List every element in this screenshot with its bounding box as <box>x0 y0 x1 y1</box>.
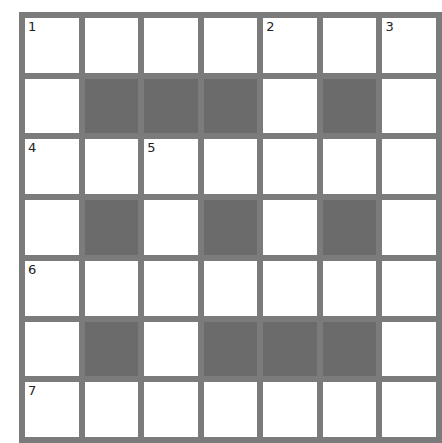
crossword-cell[interactable]: 3 <box>382 18 436 73</box>
black-cell <box>204 79 258 134</box>
crossword-cell[interactable] <box>85 261 139 316</box>
clue-number: 3 <box>385 20 393 33</box>
crossword-cell[interactable] <box>323 382 377 437</box>
crossword-cell[interactable]: 4 <box>25 139 79 194</box>
crossword-cell[interactable] <box>382 322 436 377</box>
crossword-cell[interactable] <box>85 382 139 437</box>
crossword-cell[interactable] <box>144 261 198 316</box>
crossword-cell[interactable] <box>144 18 198 73</box>
black-cell <box>204 200 258 255</box>
crossword-cell[interactable] <box>323 139 377 194</box>
black-cell <box>263 322 317 377</box>
black-cell <box>323 79 377 134</box>
black-cell <box>85 79 139 134</box>
crossword-cell[interactable] <box>144 382 198 437</box>
crossword-cell[interactable] <box>263 261 317 316</box>
crossword-cell[interactable] <box>144 322 198 377</box>
crossword-cell[interactable] <box>323 261 377 316</box>
crossword-cell[interactable] <box>85 18 139 73</box>
crossword-cell[interactable] <box>25 322 79 377</box>
clue-number: 6 <box>28 263 36 276</box>
black-cell <box>144 79 198 134</box>
clue-number: 1 <box>28 20 36 33</box>
crossword-cell[interactable] <box>263 139 317 194</box>
crossword-cell[interactable] <box>25 200 79 255</box>
crossword-cell[interactable] <box>382 200 436 255</box>
crossword-cell[interactable] <box>263 200 317 255</box>
crossword-cell[interactable] <box>263 382 317 437</box>
clue-number: 4 <box>28 141 36 154</box>
black-cell <box>85 200 139 255</box>
crossword-cell[interactable]: 5 <box>144 139 198 194</box>
crossword-cell[interactable] <box>382 79 436 134</box>
crossword-cell[interactable] <box>25 79 79 134</box>
clue-number: 5 <box>147 141 155 154</box>
crossword-cell[interactable] <box>323 18 377 73</box>
crossword-cell[interactable] <box>204 382 258 437</box>
crossword-cell[interactable] <box>382 382 436 437</box>
clue-number: 2 <box>266 20 274 33</box>
clue-number: 7 <box>28 384 36 397</box>
crossword-cell[interactable]: 2 <box>263 18 317 73</box>
crossword-cell[interactable] <box>382 261 436 316</box>
crossword-cell[interactable]: 1 <box>25 18 79 73</box>
black-cell <box>323 322 377 377</box>
black-cell <box>85 322 139 377</box>
crossword-cell[interactable] <box>263 79 317 134</box>
crossword-cell[interactable] <box>85 139 139 194</box>
crossword-cell[interactable] <box>204 18 258 73</box>
black-cell <box>204 322 258 377</box>
crossword-cell[interactable] <box>382 139 436 194</box>
crossword-cell[interactable] <box>204 139 258 194</box>
crossword-cell[interactable] <box>204 261 258 316</box>
black-cell <box>323 200 377 255</box>
crossword-grid: 1234567 <box>19 12 442 443</box>
crossword-cell[interactable] <box>144 200 198 255</box>
crossword-cell[interactable]: 7 <box>25 382 79 437</box>
crossword-cell[interactable]: 6 <box>25 261 79 316</box>
